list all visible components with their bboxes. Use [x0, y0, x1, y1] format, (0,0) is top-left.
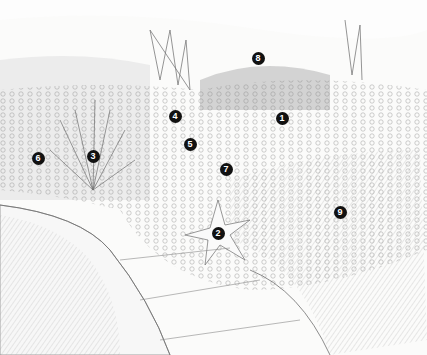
- plant-marker-4: 4: [169, 110, 182, 123]
- plant-marker-1: 1: [276, 112, 289, 125]
- garden-illustration: 1 2 3 4 5 6 7 8 9: [0, 0, 427, 355]
- plant-marker-9: 9: [334, 206, 347, 219]
- plant-marker-5: 5: [184, 138, 197, 151]
- garden-sketch: [0, 0, 427, 355]
- plant-marker-2: 2: [212, 227, 225, 240]
- plant-marker-6: 6: [32, 152, 45, 165]
- plant-marker-3: 3: [87, 150, 100, 163]
- plant-marker-8: 8: [252, 52, 265, 65]
- plant-marker-7: 7: [220, 163, 233, 176]
